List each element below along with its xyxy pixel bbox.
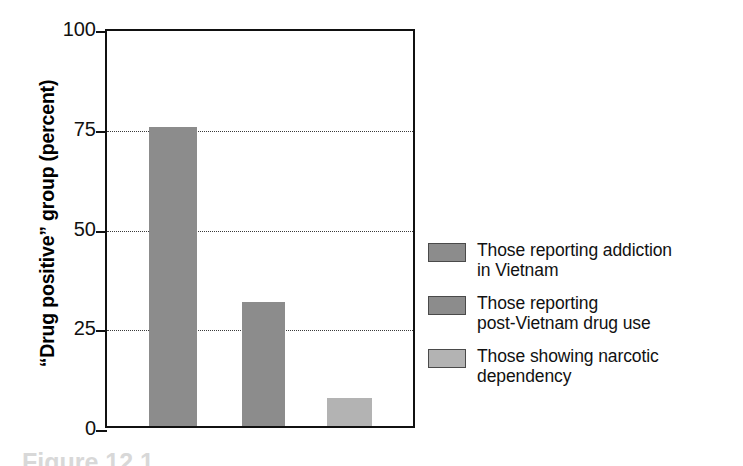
plot-area xyxy=(105,29,415,428)
y-tick-label-group: 1007550250 xyxy=(36,29,96,428)
y-tick-label: 50 xyxy=(36,219,96,239)
legend-label-line1: Those reporting addiction xyxy=(477,240,672,260)
legend-swatch xyxy=(428,349,466,368)
y-axis-tick xyxy=(96,330,107,332)
bar xyxy=(327,398,372,426)
legend-label: Those reporting addictionin Vietnam xyxy=(477,240,672,281)
y-axis-tick xyxy=(96,231,107,233)
y-axis-tick xyxy=(96,31,107,33)
y-tick-label: 0 xyxy=(36,418,96,438)
bar xyxy=(149,127,197,426)
legend: Those reporting addictionin VietnamThose… xyxy=(428,240,743,399)
y-tick-label: 75 xyxy=(36,119,96,139)
legend-item: Those reporting addictionin Vietnam xyxy=(428,240,743,281)
y-axis-tick xyxy=(96,430,107,432)
legend-item: Those reportingpost-Vietnam drug use xyxy=(428,293,743,334)
y-axis-tick xyxy=(96,131,107,133)
figure-caption: Figure 12.1 xyxy=(22,448,154,466)
bar xyxy=(242,302,285,426)
y-tick-label: 100 xyxy=(36,19,96,39)
legend-label-line2: in Vietnam xyxy=(477,260,672,280)
legend-item: Those showing narcoticdependency xyxy=(428,346,743,387)
legend-label: Those showing narcoticdependency xyxy=(477,346,659,387)
legend-label: Those reportingpost-Vietnam drug use xyxy=(477,293,651,334)
legend-label-line2: dependency xyxy=(477,366,659,386)
legend-label-line2: post-Vietnam drug use xyxy=(477,313,651,333)
legend-swatch xyxy=(428,296,466,315)
y-tick-label: 25 xyxy=(36,318,96,338)
plot-inner xyxy=(107,31,413,426)
legend-label-line1: Those showing narcotic xyxy=(477,346,659,366)
legend-swatch xyxy=(428,243,466,262)
legend-label-line1: Those reporting xyxy=(477,293,598,313)
